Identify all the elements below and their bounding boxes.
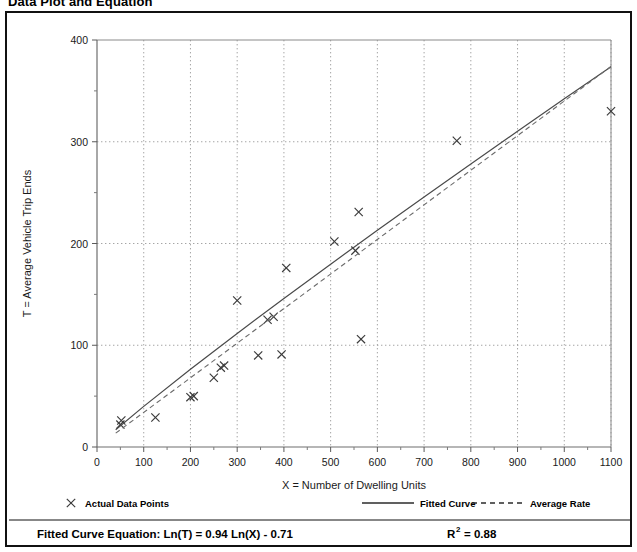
x-tick-label: 800 — [462, 456, 480, 468]
x-tick-label: 0 — [94, 456, 100, 468]
tick-marks — [92, 40, 611, 452]
y-tick-label: 100 — [70, 339, 88, 351]
data-point-marker — [233, 296, 241, 304]
chart-canvas: 010020030040050060070080090010001100 010… — [7, 13, 634, 549]
x-tick-label: 500 — [322, 456, 340, 468]
y-tick-labels: 0100200300400 — [70, 34, 88, 453]
x-tick-label: 100 — [135, 456, 153, 468]
x-tick-label: 200 — [182, 456, 200, 468]
x-axis-title: X = Number of Dwelling Units — [282, 479, 426, 491]
x-tick-label: 700 — [415, 456, 433, 468]
data-point-marker — [330, 237, 338, 245]
data-point-marker — [151, 413, 159, 421]
y-tick-label: 300 — [70, 136, 88, 148]
data-point-marker — [355, 208, 363, 216]
fitted-curve-line — [116, 67, 611, 430]
x-tick-label: 1100 — [600, 456, 623, 468]
x-tick-label: 600 — [369, 456, 387, 468]
legend-label: Fitted Curve — [420, 498, 475, 509]
legend-label: Actual Data Points — [85, 498, 169, 509]
x-tick-label: 1000 — [553, 456, 577, 468]
data-point-marker — [220, 362, 228, 370]
r-squared-exponent: 2 — [456, 525, 461, 534]
legend-label: Average Rate — [530, 498, 590, 509]
r-squared-label: R — [447, 528, 456, 540]
data-point-marker — [453, 137, 461, 145]
y-tick-label: 400 — [70, 34, 88, 46]
x-tick-label: 300 — [228, 456, 246, 468]
legend-marker-actual-data-points — [67, 499, 75, 507]
data-point-marker — [282, 264, 290, 272]
x-tick-labels: 010020030040050060070080090010001100 — [94, 456, 622, 468]
x-tick-label: 900 — [509, 456, 527, 468]
y-axis-title: T = Average Vehicle Trip Ends — [21, 169, 33, 317]
y-tick-label: 200 — [70, 238, 88, 250]
data-point-marker — [254, 351, 262, 359]
average-rate-line — [116, 66, 611, 433]
fitted-curve-equation: Fitted Curve Equation: Ln(T) = 0.94 Ln(X… — [37, 528, 294, 540]
data-point-marker — [210, 374, 218, 382]
chart-legend: Actual Data PointsFitted CurveAverage Ra… — [67, 498, 591, 509]
data-point-marker — [357, 335, 365, 343]
grid-layer — [97, 40, 611, 447]
data-point-marker — [277, 350, 285, 358]
figure-frame: 010020030040050060070080090010001100 010… — [5, 11, 632, 547]
page-title: Data Plot and Equation — [8, 0, 152, 9]
equation-row: Fitted Curve Equation: Ln(T) = 0.94 Ln(X… — [9, 520, 632, 540]
y-tick-label: 0 — [82, 441, 88, 453]
r-squared-value: = 0.88 — [464, 528, 497, 540]
data-series-layer — [116, 66, 615, 433]
x-tick-label: 400 — [275, 456, 293, 468]
plot-area: 010020030040050060070080090010001100 010… — [7, 13, 634, 549]
